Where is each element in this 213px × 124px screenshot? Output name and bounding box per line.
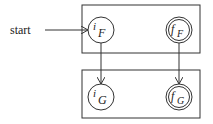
state-fG: f G bbox=[166, 84, 192, 110]
state-iG-main: i bbox=[93, 87, 96, 99]
state-iG: i G bbox=[88, 84, 114, 110]
state-fF: f F bbox=[166, 17, 192, 43]
state-iG-sub: G bbox=[98, 93, 107, 107]
start-label: start bbox=[10, 23, 31, 37]
state-fG-sub: G bbox=[177, 95, 184, 106]
state-fF-sub: F bbox=[176, 28, 184, 39]
state-iF: i F bbox=[88, 17, 114, 43]
state-iF-sub: F bbox=[97, 26, 106, 40]
state-iF-main: i bbox=[93, 20, 96, 32]
automaton-diagram: start i F f F i G f G bbox=[0, 0, 213, 124]
